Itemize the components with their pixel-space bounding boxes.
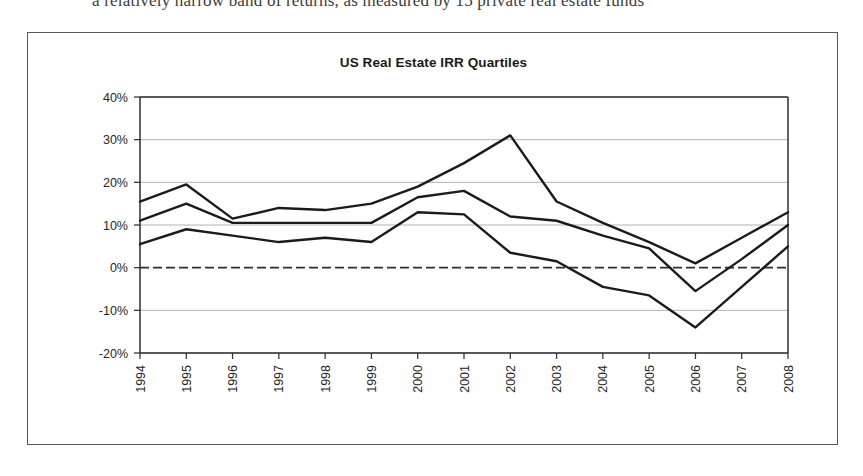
y-axis-label: 40% (103, 91, 128, 105)
y-axis-labels-group: 40%30%20%10%0%-10%-20% (99, 91, 128, 361)
x-axis-label: 2006 (689, 365, 703, 393)
page-caption-text: a relatively narrow band of returns, as … (92, 0, 792, 11)
y-axis-label: -10% (99, 304, 128, 318)
x-axis-label: 1996 (226, 365, 240, 393)
x-axis-label: 1995 (180, 365, 194, 393)
y-axis-label: 0% (110, 261, 128, 275)
x-axis-label: 1999 (365, 365, 379, 393)
series-line (140, 191, 788, 291)
x-axis-label: 2001 (458, 365, 472, 393)
y-axis-label: 30% (103, 133, 128, 147)
x-axis-label: 2003 (550, 365, 564, 393)
series-line (140, 135, 788, 263)
page-root: a relatively narrow band of returns, as … (0, 0, 863, 476)
x-axis-label: 1994 (134, 365, 148, 393)
page-caption-strip: a relatively narrow band of returns, as … (0, 0, 863, 22)
x-axis-label: 2007 (735, 365, 749, 393)
y-axis-label: -20% (99, 347, 128, 361)
x-tick-marks-group (140, 353, 788, 359)
x-axis-label: 2008 (782, 365, 796, 393)
x-axis-label: 1997 (272, 365, 286, 393)
x-axis-label: 2004 (596, 365, 610, 393)
x-axis-label: 2000 (411, 365, 425, 393)
x-axis-label: 2005 (643, 365, 657, 393)
y-tick-marks-group (134, 97, 140, 353)
line-chart-plot: 40%30%20%10%0%-10%-20% 19941995199619971… (28, 33, 839, 446)
figure-frame: US Real Estate IRR Quartiles 40%30%20%10… (27, 32, 838, 445)
y-axis-label: 10% (103, 219, 128, 233)
data-series-group (140, 135, 788, 327)
gridlines-group (140, 97, 788, 353)
x-axis-label: 1998 (319, 365, 333, 393)
y-axis-label: 20% (103, 176, 128, 190)
x-axis-labels-group: 1994199519961997199819992000200120022003… (134, 365, 796, 393)
x-axis-label: 2002 (504, 365, 518, 393)
